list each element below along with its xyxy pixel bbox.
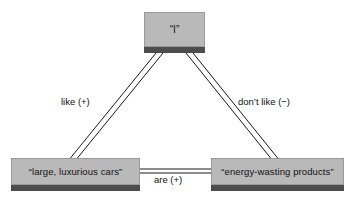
node-cars-shadow [11,185,140,191]
semantic-network-diagram: “I” “large, luxurious cars” “energy-wast… [0,0,353,207]
node-self-shadow [144,47,205,53]
edge-label-dont-like: don’t like (−) [238,96,290,107]
node-products-shadow [211,185,344,191]
node-cars-face: “large, luxurious cars” [11,158,140,185]
edge-label-are: are (+) [154,174,182,185]
node-cars-label: “large, luxurious cars” [29,166,123,177]
node-self: “I” [144,12,205,53]
node-products: “energy-wasting products” [211,158,344,191]
edge-self-to-products [186,53,280,161]
node-self-label: “I” [170,24,180,35]
node-products-label: “energy-wasting products” [221,166,333,177]
node-self-face: “I” [144,12,205,47]
edge-self-to-cars [68,53,163,161]
node-products-face: “energy-wasting products” [211,158,344,185]
edge-cars-to-products [140,169,211,173]
edge-label-like: like (+) [61,96,90,107]
node-cars: “large, luxurious cars” [11,158,140,191]
